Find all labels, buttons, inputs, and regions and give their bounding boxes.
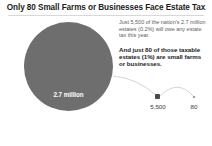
infographic-panel: Only 80 Small Farms or Businesses Face E… (0, 0, 212, 146)
callout-block: Just 5,500 of the nation's 2.7 million e… (119, 19, 207, 67)
bubble-small-farms (193, 96, 195, 98)
callout-highlight-text: And just 80 of those taxable estates (1%… (119, 46, 207, 68)
bubble-total-estates-label: 2.7 million (24, 91, 113, 98)
bubble-taxable-estates (155, 94, 160, 99)
callout-note-text: Just 5,500 of the nation's 2.7 million e… (119, 19, 207, 39)
bubble-small-farms-label: 80 (178, 103, 210, 110)
bubble-taxable-estates-label: 5,500 (134, 103, 182, 110)
page-title: Only 80 Small Farms or Businesses Face E… (0, 3, 212, 13)
